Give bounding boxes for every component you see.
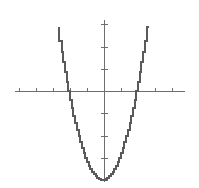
parabola-graph-figure: [0, 0, 199, 188]
plot-background: [0, 0, 199, 188]
plot-canvas: [0, 0, 199, 188]
